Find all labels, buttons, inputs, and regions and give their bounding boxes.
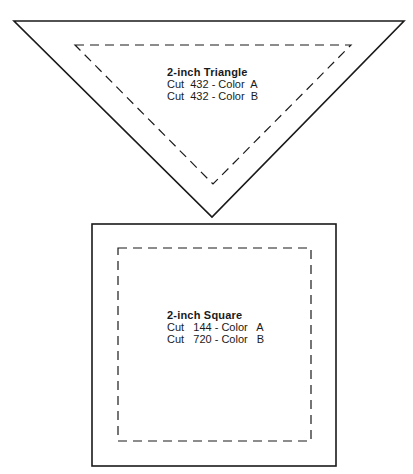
square-outer-cut-line — [92, 224, 336, 466]
square-cut-color-b: Cut 720 - Color B — [167, 333, 264, 345]
triangle-title: 2-inch Triangle — [167, 66, 258, 78]
triangle-cut-color-b: Cut 432 - Color B — [167, 90, 258, 102]
square-cut-color-a: Cut 144 - Color A — [167, 321, 264, 333]
square-label: 2-inch Square Cut 144 - Color A Cut 720 … — [167, 309, 264, 345]
triangle-outer-cut-line — [14, 21, 404, 217]
square-title: 2-inch Square — [167, 309, 264, 321]
triangle-label: 2-inch Triangle Cut 432 - Color A Cut 43… — [167, 66, 258, 102]
triangle-cut-color-a: Cut 432 - Color A — [167, 78, 258, 90]
